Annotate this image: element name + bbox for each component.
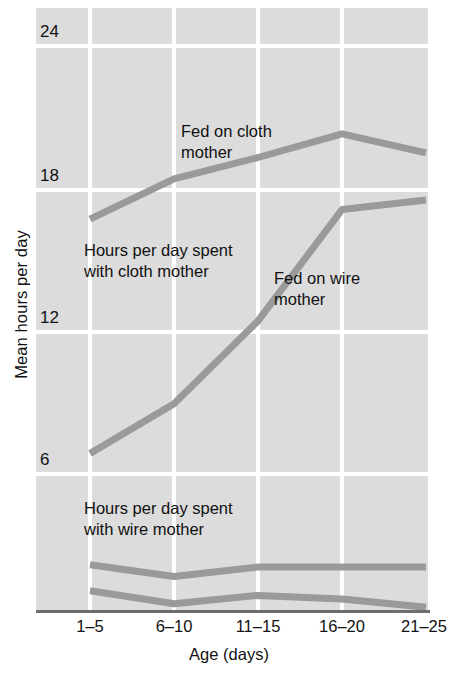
x-axis-title: Age (days) xyxy=(0,645,458,664)
annotation-hours-with-wire-mother: Hours per day spent with wire mother xyxy=(84,498,233,540)
x-axis-line xyxy=(36,610,430,613)
annotation-fed-on-cloth-mother: Fed on cloth mother xyxy=(181,121,272,163)
x-tick-label-3: 11–15 xyxy=(236,617,281,636)
chart-figure: Mean hours per day 24 18 12 6 Fed on clo… xyxy=(0,0,458,675)
annotation-hours-with-cloth-mother: Hours per day spent with cloth mother xyxy=(84,240,233,282)
x-tick-label-2: 6–10 xyxy=(156,617,193,636)
series-line-fed-on-wire-mother xyxy=(90,200,426,453)
x-tick-label-5: 21–25 xyxy=(401,617,447,636)
x-tick-label-1: 1–5 xyxy=(76,617,104,636)
annotation-fed-on-wire-mother: Fed on wire mother xyxy=(274,268,360,310)
series-line-hours-with-wire-mother-upper xyxy=(90,565,426,577)
x-tick-label-4: 16–20 xyxy=(319,617,365,636)
plot-area: 24 18 12 6 Fed on cloth mother Hours per… xyxy=(36,8,428,612)
y-axis-title: Mean hours per day xyxy=(12,180,31,430)
series-line-hours-with-wire-mother-lower xyxy=(90,591,426,608)
